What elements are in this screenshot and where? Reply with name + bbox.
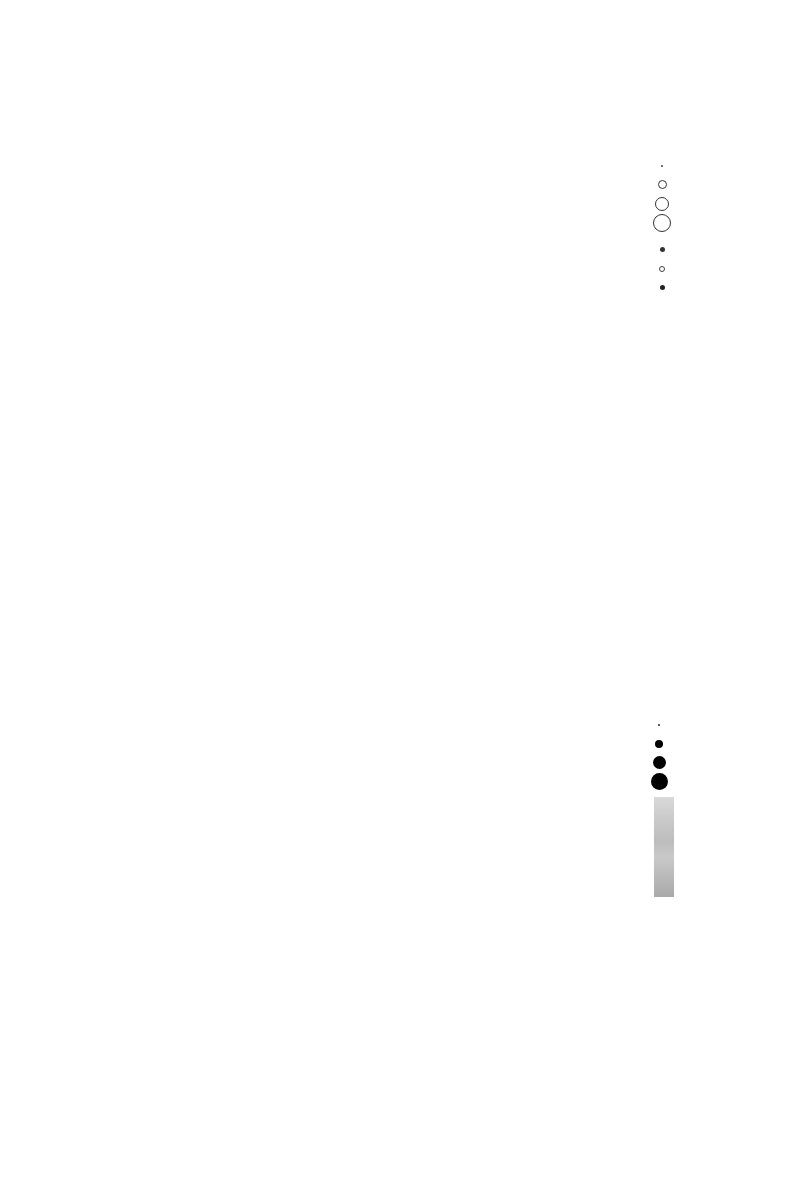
- size-3-icon: [651, 773, 668, 790]
- colorbar: [648, 797, 682, 897]
- threshold-high: [651, 240, 677, 259]
- size-legend-3: [648, 772, 682, 791]
- low-dot-icon: [660, 285, 665, 290]
- bottom-plot-area: [0, 580, 811, 1181]
- size-2-icon: [653, 756, 666, 769]
- size-legend-2: [648, 753, 682, 772]
- top-bubble-chart: [0, 0, 811, 580]
- size-legend-0: [651, 156, 677, 175]
- bottom-legend: [648, 711, 682, 897]
- threshold-mid: [651, 259, 677, 278]
- size-3-icon: [653, 214, 671, 232]
- size-1-icon: [658, 180, 667, 189]
- bottom-heatmap-chart: [0, 580, 811, 1181]
- size-legend-1: [648, 734, 682, 753]
- colorbar-gradient: [654, 797, 674, 897]
- threshold-low: [651, 278, 677, 297]
- size-0-icon: [658, 724, 660, 726]
- mid-ring-icon: [659, 266, 665, 272]
- size-0-icon: [661, 165, 663, 167]
- size-legend-2: [651, 194, 677, 213]
- size-1-icon: [655, 740, 663, 748]
- size-legend-3: [651, 213, 677, 232]
- size-2-icon: [655, 197, 669, 211]
- high-dot-icon: [660, 247, 665, 252]
- size-legend-1: [651, 175, 677, 194]
- top-plot-area: [0, 0, 811, 580]
- top-legend: [651, 152, 677, 297]
- size-legend-0: [648, 715, 682, 734]
